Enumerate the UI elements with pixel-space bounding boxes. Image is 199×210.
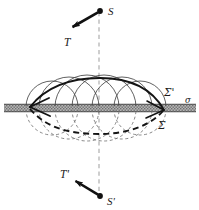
upper-source-group: [73, 8, 103, 27]
wavelet-arc-lower: [92, 109, 152, 139]
label-tension-lower: T': [60, 168, 69, 180]
label-tension-upper: T: [64, 36, 72, 48]
label-plane-sigma: σ: [185, 95, 191, 105]
figure-canvas: S T S' T' Σ' Σ σ: [0, 0, 199, 210]
huygens-construction-figure: S T S' T' Σ' Σ σ: [0, 0, 199, 210]
tension-arrow-t: [73, 12, 99, 27]
tension-arrow-t-prime: [76, 181, 99, 195]
label-envelope-upper: Σ': [163, 86, 174, 98]
label-source-lower: S': [107, 195, 116, 207]
wavelet-arc-upper: [114, 81, 166, 107]
label-envelope-lower: Σ: [157, 119, 166, 131]
label-source-upper: S: [108, 5, 114, 17]
